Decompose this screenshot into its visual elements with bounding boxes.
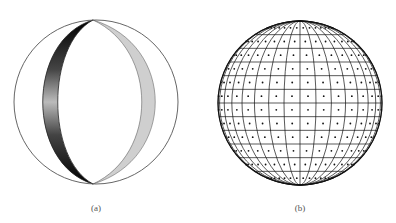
panel-a-label: (a) (91, 203, 101, 213)
figure-canvas (0, 0, 396, 223)
light-lune (93, 20, 155, 184)
panel-b-label: (b) (295, 203, 306, 213)
panel-b-sphere-grid (218, 21, 382, 185)
panel-a-sphere-lunes (14, 20, 178, 184)
dark-lune (43, 20, 93, 184)
